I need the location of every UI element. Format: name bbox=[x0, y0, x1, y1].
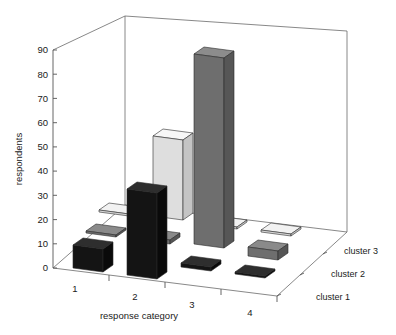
y-axis: 0 10 20 30 40 50 60 70 80 90 respondents bbox=[13, 44, 57, 273]
depth-tick-label-cluster2: cluster 2 bbox=[331, 269, 365, 279]
depth-tick-label-cluster3: cluster 3 bbox=[344, 246, 378, 256]
depth-axis-tick-labels: cluster 1 cluster 2 cluster 3 bbox=[316, 246, 378, 302]
y-tick-label: 80 bbox=[37, 69, 48, 80]
y-tick-label: 70 bbox=[37, 93, 48, 104]
bar-chart-3d: 0 10 20 30 40 50 60 70 80 90 respondents bbox=[0, 0, 396, 335]
depth-axis: cluster 1 cluster 2 cluster 3 bbox=[277, 246, 378, 302]
x-axis-title: response category bbox=[100, 310, 178, 321]
x-tick-label: 3 bbox=[189, 299, 194, 310]
bar-cluster3-cat4 bbox=[261, 223, 301, 236]
depth-tick-label-cluster1: cluster 1 bbox=[316, 292, 350, 302]
x-tick-label: 2 bbox=[132, 291, 137, 302]
bar-cluster1-cat3 bbox=[181, 256, 221, 271]
y-axis-tick-labels: 0 10 20 30 40 50 60 70 80 90 bbox=[37, 44, 48, 273]
y-tick-label: 10 bbox=[37, 238, 48, 249]
bar-cluster1-cat4 bbox=[235, 265, 275, 278]
x-axis: 1 2 3 4 response category bbox=[72, 275, 277, 321]
y-tick-label: 40 bbox=[37, 165, 48, 176]
y-tick-label: 50 bbox=[37, 141, 48, 152]
y-axis-title: respondents bbox=[13, 133, 24, 186]
y-axis-ticks bbox=[53, 50, 57, 268]
x-tick-label: 4 bbox=[247, 307, 252, 318]
bar-cluster2-cat4 bbox=[248, 240, 288, 260]
bar-cluster2-cat1 bbox=[86, 224, 126, 237]
y-tick-label: 60 bbox=[37, 117, 48, 128]
bar-cluster1-cat1 bbox=[73, 238, 113, 272]
bar-cluster1-cat2 bbox=[127, 182, 167, 279]
y-tick-label: 90 bbox=[37, 44, 48, 55]
y-tick-label: 30 bbox=[37, 190, 48, 201]
x-tick-label: 1 bbox=[72, 283, 77, 294]
bar-cluster2-cat3 bbox=[194, 47, 234, 248]
chart-container: 0 10 20 30 40 50 60 70 80 90 respondents bbox=[0, 0, 396, 335]
y-tick-label: 0 bbox=[43, 262, 48, 273]
y-tick-label: 20 bbox=[37, 214, 48, 225]
